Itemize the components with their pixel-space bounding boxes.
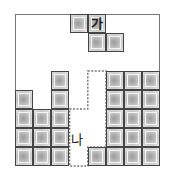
stacked-block: [142, 71, 160, 90]
stacked-block: [51, 147, 69, 166]
stacked-block: [106, 147, 124, 166]
stacked-block: [142, 90, 160, 109]
stacked-block: [124, 128, 142, 147]
stacked-block: [106, 71, 124, 90]
stacked-block: [15, 128, 33, 147]
target-slot-label: 나: [71, 129, 83, 148]
stacked-block: [106, 128, 124, 147]
stacked-block: [142, 147, 160, 166]
stacked-block: [15, 90, 33, 109]
stacked-block: [33, 147, 51, 166]
stacked-block: [15, 147, 33, 166]
stacked-block: [33, 109, 51, 128]
stacked-block: [51, 90, 69, 109]
falling-block: [88, 33, 106, 52]
falling-piece-label: 가: [88, 14, 106, 33]
stacked-block: [106, 109, 124, 128]
stacked-block: [51, 109, 69, 128]
stacked-block: [124, 90, 142, 109]
stacked-block: [88, 147, 106, 166]
stacked-block: [124, 109, 142, 128]
falling-block: [70, 14, 88, 33]
stacked-block: [15, 109, 33, 128]
stacked-block: [33, 128, 51, 147]
stacked-block: [142, 128, 160, 147]
stacked-block: [106, 90, 124, 109]
falling-block: [106, 33, 124, 52]
stacked-block: [51, 128, 69, 147]
stacked-block: [51, 71, 69, 90]
stacked-block: [124, 71, 142, 90]
stacked-block: [142, 109, 160, 128]
stacked-block: [124, 147, 142, 166]
